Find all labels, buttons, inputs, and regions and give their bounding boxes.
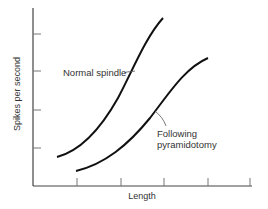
- y-ticks: [33, 34, 41, 148]
- x-ticks: [77, 178, 250, 186]
- curve-normal-spindle: [57, 18, 163, 157]
- x-axis-label: Length: [128, 191, 156, 201]
- leader-following-pyramidotomy: [155, 111, 166, 126]
- label-following: Following: [157, 128, 197, 139]
- chart-figure: Normal spindle Following pyramidotomy Le…: [0, 0, 268, 209]
- y-axis-label: Spikes per second: [12, 57, 22, 131]
- label-normal-spindle: Normal spindle: [63, 67, 126, 78]
- label-pyramidotomy: pyramidotomy: [157, 139, 217, 150]
